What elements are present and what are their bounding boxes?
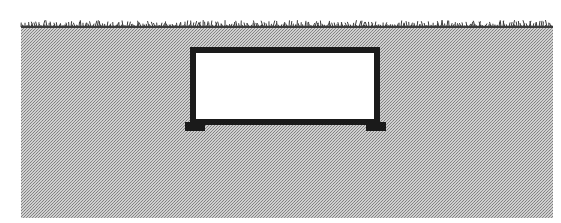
box-structure <box>185 47 386 131</box>
footing-right <box>366 122 386 131</box>
soil-structure-diagram <box>0 0 561 223</box>
structure-opening <box>196 53 374 119</box>
grass-surface <box>21 20 553 27</box>
footing-left <box>185 122 205 131</box>
